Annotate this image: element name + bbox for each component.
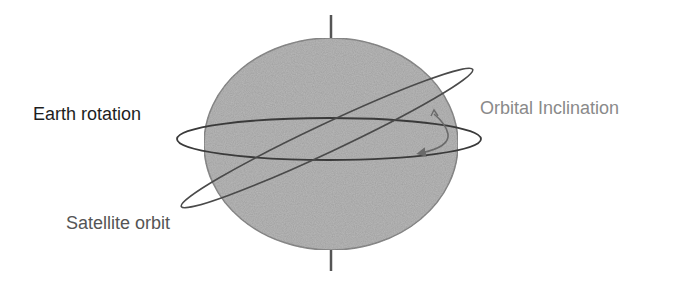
orbit-diagram: Earth rotation Orbital Inclination Satel…: [0, 0, 695, 298]
globe: [204, 38, 458, 250]
diagram-svg: [0, 0, 695, 298]
earth-rotation-label: Earth rotation: [33, 104, 141, 124]
orbital-inclination-label: Orbital Inclination: [480, 98, 619, 118]
satellite-orbit-label: Satellite orbit: [66, 213, 170, 233]
